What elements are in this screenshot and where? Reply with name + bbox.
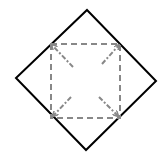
diamond-square-diagram	[0, 0, 167, 160]
background	[0, 0, 167, 160]
